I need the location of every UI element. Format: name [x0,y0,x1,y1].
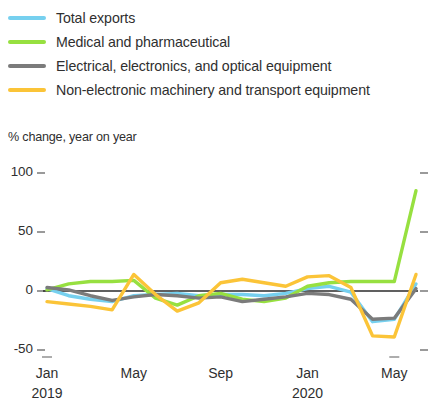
x-tick-label: Jan [267,365,347,381]
series-line [47,191,416,305]
y-tick-label: 100 [11,164,33,179]
x-tick-year-label: 2019 [7,385,87,401]
series-line [47,284,416,322]
export-growth-line-chart: Total exports Medical and pharmaceutical… [0,0,439,409]
data-series-group [47,191,416,337]
x-tick-year-label: 2020 [267,385,347,401]
x-tick-label: Sep [181,365,261,381]
plot-svg [0,0,439,409]
x-tick-label: May [94,365,174,381]
y-tick-label: -50 [14,341,33,356]
plot-area: 100500-50 Jan2019MaySepJan2020May [0,0,439,409]
x-tick-label: Jan [7,365,87,381]
y-tick-label: 50 [18,223,33,238]
series-line [47,274,416,337]
y-tick-label: 0 [26,282,33,297]
x-tick-label: May [354,365,434,381]
